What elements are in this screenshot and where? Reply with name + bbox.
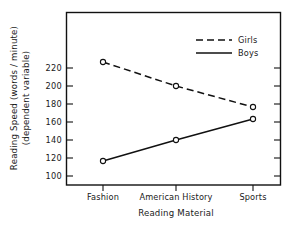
y-axis-ticks-right <box>274 68 281 176</box>
chart-canvas: 220 200 180 160 140 120 100 Fashion Amer… <box>0 0 296 233</box>
y-tick-label-220: 220 <box>45 63 62 73</box>
y-tick-label-140: 140 <box>45 135 62 145</box>
chart-legend: Girls Boys <box>196 35 259 58</box>
x-axis-ticks <box>103 185 253 191</box>
data-point-girls-american-history <box>173 83 178 88</box>
data-point-girls-fashion <box>100 59 105 64</box>
data-point-boys-sports <box>250 116 255 121</box>
x-tick-label-fashion: Fashion <box>87 192 119 202</box>
y-axis-title-line1: Reading Speed (words / minute) <box>9 26 19 170</box>
x-axis-title: Reading Material <box>138 208 214 218</box>
y-tick-label-100: 100 <box>45 171 62 181</box>
y-tick-label-200: 200 <box>45 81 62 91</box>
y-tick-label-120: 120 <box>45 153 62 163</box>
data-point-boys-fashion <box>100 158 105 163</box>
x-tick-label-sports: Sports <box>239 192 266 202</box>
x-tick-label-american-history: American History <box>139 192 212 202</box>
legend-label-boys: Boys <box>238 48 259 58</box>
y-tick-label-160: 160 <box>45 117 62 127</box>
y-axis-ticks-left <box>67 68 74 176</box>
y-axis-title-line2: (dependent variable) <box>21 51 31 146</box>
legend-label-girls: Girls <box>238 35 258 45</box>
data-point-girls-sports <box>250 104 255 109</box>
data-point-boys-american-history <box>173 137 178 142</box>
chart-figure: 220 200 180 160 140 120 100 Fashion Amer… <box>0 0 296 233</box>
series-markers-boys <box>100 116 255 163</box>
y-tick-label-180: 180 <box>45 99 62 109</box>
